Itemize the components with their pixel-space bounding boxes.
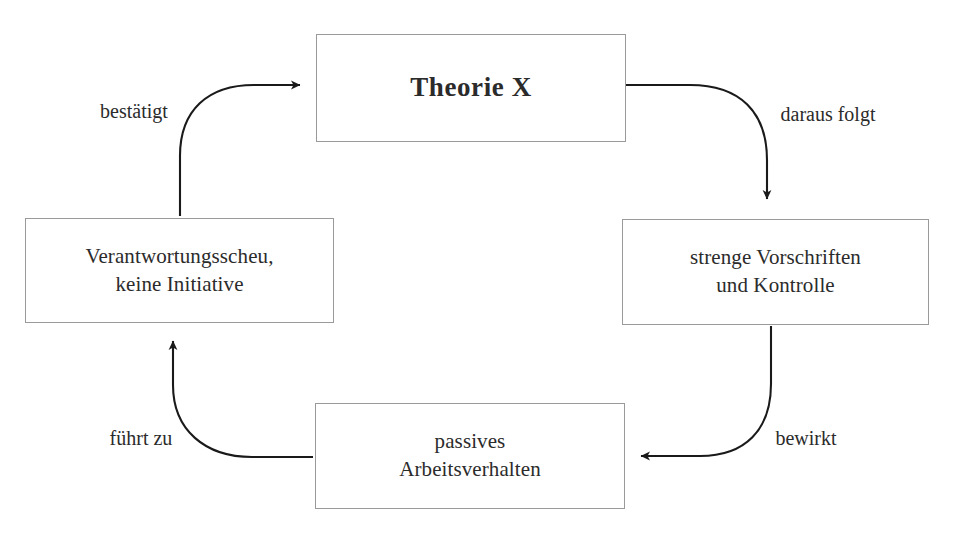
node-strenge-vorschriften-und-kontrolle-label: strenge Vorschriften und Kontrolle (690, 244, 861, 299)
node-verantwortungsscheu-keine-initiative-label: Verantwortungsscheu, keine Initiative (85, 243, 273, 298)
diagram-canvas: Theorie X strenge Vorschriften und Kontr… (0, 0, 975, 544)
edge-path-fuehrt-zu (173, 341, 313, 457)
edge-label-bewirkt: bewirkt (775, 428, 836, 448)
node-passives-arbeitsverhalten: passives Arbeitsverhalten (315, 403, 625, 509)
edge-path-daraus-folgt (626, 85, 767, 199)
edge-label-fuehrt-zu: führt zu (110, 428, 173, 448)
edge-label-bestaetigt: bestätigt (100, 101, 168, 121)
edge-label-daraus-folgt: daraus folgt (781, 104, 876, 124)
node-strenge-vorschriften-und-kontrolle: strenge Vorschriften und Kontrolle (622, 219, 929, 325)
node-passives-arbeitsverhalten-label: passives Arbeitsverhalten (399, 428, 541, 483)
edge-path-bestaetigt (180, 85, 300, 216)
node-verantwortungsscheu-keine-initiative: Verantwortungsscheu, keine Initiative (25, 218, 334, 323)
node-theorie-x-label: Theorie X (410, 70, 532, 106)
node-theorie-x: Theorie X (316, 34, 626, 142)
edge-path-bewirkt (641, 326, 771, 456)
